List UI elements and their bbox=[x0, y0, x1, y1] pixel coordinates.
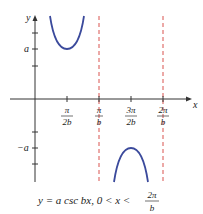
x-tick-label-pi-over-2b: π 2b bbox=[61, 105, 73, 127]
caption-text: y = a csc bx, 0 < x < bbox=[37, 194, 130, 206]
cosecant-graph: y x a −a π 2b π b 3π 2b 2π b y = a csc b… bbox=[0, 0, 203, 214]
svg-text:2b: 2b bbox=[63, 117, 73, 127]
svg-text:b: b bbox=[97, 117, 102, 127]
x-tick-label-2pi-over-b: 2π b bbox=[157, 105, 169, 127]
y-axis-arrow-icon bbox=[33, 15, 38, 21]
y-axis-label: y bbox=[25, 12, 31, 23]
x-axis-label: x bbox=[192, 99, 198, 110]
y-tick-label-neg-a: −a bbox=[17, 142, 29, 153]
lower-branch-curve bbox=[114, 148, 148, 182]
svg-text:b: b bbox=[161, 117, 166, 127]
svg-text:2π: 2π bbox=[158, 105, 168, 115]
x-tick-label-3pi-over-2b: 3π 2b bbox=[125, 105, 137, 127]
svg-text:2b: 2b bbox=[127, 117, 137, 127]
y-tick-label-a: a bbox=[24, 43, 29, 54]
caption: y = a csc bx, 0 < x < 2π b bbox=[37, 190, 159, 213]
caption-frac-den: b bbox=[150, 203, 155, 213]
svg-text:3π: 3π bbox=[125, 105, 136, 115]
x-axis-arrow-icon bbox=[186, 97, 192, 102]
x-tick-label-pi-over-b: π b bbox=[95, 105, 103, 127]
upper-branch-curve bbox=[50, 16, 84, 49]
svg-text:π: π bbox=[65, 105, 70, 115]
caption-frac-num: 2π bbox=[147, 190, 157, 200]
svg-text:π: π bbox=[97, 105, 102, 115]
